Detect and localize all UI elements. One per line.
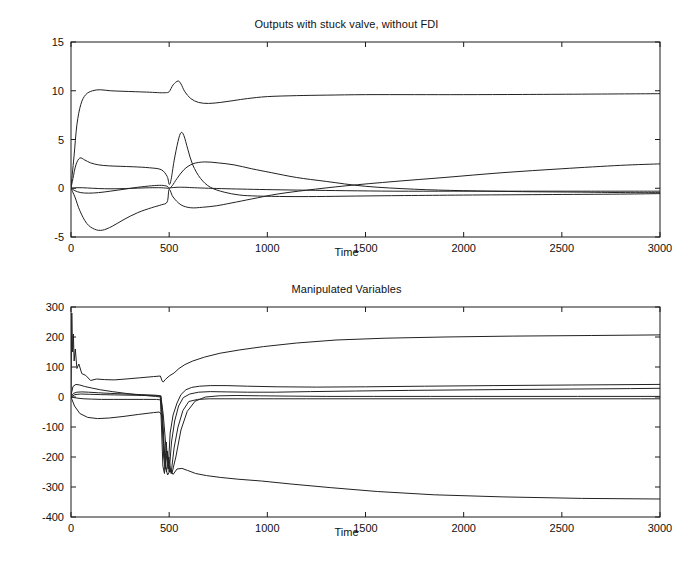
series-line-mv-1: [71, 313, 660, 397]
top-plot-xlabel: Time: [0, 246, 693, 258]
series-line-output-3: [71, 162, 660, 193]
series-line-mv-2: [71, 384, 660, 473]
series-line-output-2: [71, 132, 660, 196]
series-line-output-5: [71, 187, 660, 191]
y-tick-label: 0: [58, 182, 64, 194]
y-tick-label: -400: [42, 511, 64, 523]
series-group: [71, 81, 660, 230]
y-tick-label: -5: [54, 231, 64, 243]
y-tick-label: 5: [58, 134, 64, 146]
series-line-mv-4: [71, 397, 660, 474]
figure-container: Outputs with stuck valve, without FDI 05…: [0, 0, 693, 578]
top-plot-title: Outputs with stuck valve, without FDI: [0, 18, 693, 30]
bottom-plot-title: Manipulated Variables: [0, 283, 693, 295]
y-tick-label: -300: [42, 481, 64, 493]
y-tick-label: 200: [46, 331, 64, 343]
y-tick-label: 300: [46, 301, 64, 313]
series-line-mv-3: [71, 388, 660, 472]
y-tick-label: 0: [58, 391, 64, 403]
series-group: [71, 313, 660, 499]
y-tick-label: -100: [42, 421, 64, 433]
bottom-plot-svg: 050010001500200025003000-400-300-200-100…: [0, 297, 693, 547]
y-tick-label: 100: [46, 361, 64, 373]
y-tick-label: 15: [52, 36, 64, 48]
plot-frame: [71, 42, 660, 237]
top-plot-svg: 050010001500200025003000-5051015: [0, 32, 693, 282]
bottom-plot-xlabel: Time: [0, 526, 693, 538]
series-line-output-4: [71, 164, 660, 231]
y-tick-label: 10: [52, 85, 64, 97]
series-line-mv-5: [71, 397, 660, 499]
plot-panel-outputs: Outputs with stuck valve, without FDI 05…: [0, 18, 693, 278]
series-line-mv-6: [71, 394, 660, 474]
series-line-output-1: [71, 81, 660, 187]
plot-panel-manipulated: Manipulated Variables 050010001500200025…: [0, 283, 693, 573]
y-tick-label: -200: [42, 451, 64, 463]
